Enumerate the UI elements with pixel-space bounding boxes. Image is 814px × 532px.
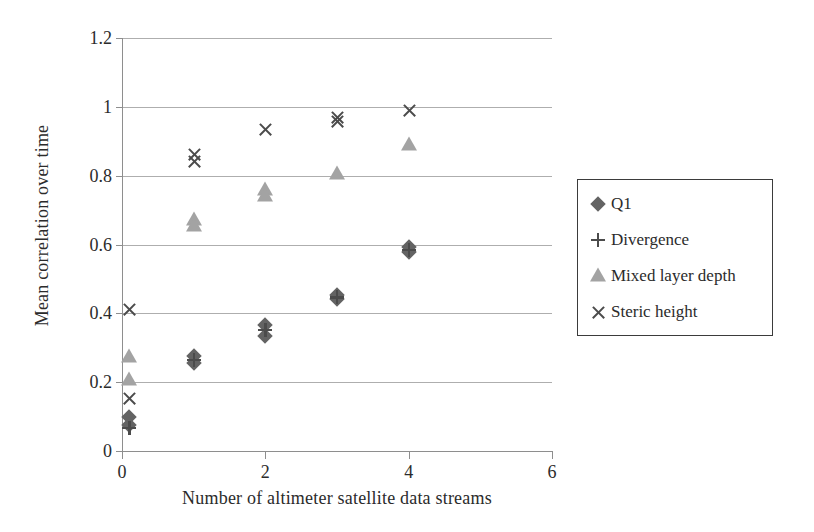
diamond-marker-icon (590, 196, 606, 212)
scatter-chart-figure: Mean correlation over time Number of alt… (0, 0, 814, 532)
cross-marker-icon (591, 305, 606, 320)
y-tick-label: 0.2 (90, 372, 113, 393)
legend-item-mixed-layer-depth[interactable]: Mixed layer depth (588, 264, 736, 288)
data-point-cross (122, 391, 137, 406)
legend-label: Q1 (611, 194, 632, 214)
gridline (122, 38, 552, 39)
data-point-triangle (401, 137, 417, 151)
y-tick-mark (116, 176, 123, 177)
data-point-plus (402, 243, 416, 257)
data-point-plus (330, 290, 344, 304)
y-tick-label: 1 (103, 96, 112, 117)
x-axis-title: Number of altimeter satellite data strea… (122, 488, 552, 509)
chart-legend: Q1DivergenceMixed layer depthSteric heig… (577, 179, 773, 336)
x-tick-mark (265, 451, 266, 459)
data-point-triangle (257, 188, 273, 202)
legend-swatch (588, 194, 608, 214)
x-tick-label: 0 (118, 462, 127, 483)
y-tick-mark (116, 107, 123, 108)
data-point-cross (186, 154, 201, 169)
x-tick-mark (122, 451, 123, 459)
legend-label: Divergence (611, 230, 689, 250)
y-axis-title: Mean correlation over time (32, 66, 53, 386)
y-tick-label: 0.6 (90, 234, 113, 255)
legend-item-divergence[interactable]: Divergence (588, 228, 689, 252)
data-point-cross (122, 302, 137, 317)
data-point-triangle (121, 349, 137, 363)
y-tick-label: 0.8 (90, 165, 113, 186)
gridline (122, 245, 552, 246)
legend-swatch (588, 266, 608, 286)
x-tick-label: 2 (261, 462, 270, 483)
data-point-plus (258, 323, 272, 337)
y-tick-mark (116, 38, 123, 39)
y-tick-label: 0.4 (90, 303, 113, 324)
data-point-cross (330, 114, 345, 129)
data-point-plus (187, 353, 201, 367)
plus-marker-icon (591, 233, 605, 247)
gridline (122, 107, 552, 108)
triangle-marker-icon (590, 268, 606, 282)
legend-label: Steric height (611, 302, 697, 322)
data-point-triangle (121, 372, 137, 386)
y-tick-mark (116, 245, 123, 246)
data-point-plus (122, 421, 136, 435)
x-tick-label: 4 (404, 462, 413, 483)
y-tick-label: 0 (103, 441, 112, 462)
gridline (122, 313, 552, 314)
legend-label: Mixed layer depth (611, 266, 736, 286)
data-point-triangle (329, 166, 345, 180)
y-tick-label: 1.2 (90, 28, 113, 49)
legend-swatch (588, 230, 608, 250)
legend-item-steric-height[interactable]: Steric height (588, 300, 697, 324)
x-axis-line (122, 451, 552, 452)
data-point-triangle (186, 217, 202, 231)
gridline (122, 382, 552, 383)
x-tick-label: 6 (548, 462, 557, 483)
legend-item-q1[interactable]: Q1 (588, 192, 632, 216)
plot-area: 00.20.40.60.811.2 0246 (122, 38, 552, 451)
x-tick-mark (409, 451, 410, 459)
legend-swatch (588, 302, 608, 322)
data-point-cross (258, 122, 273, 137)
data-point-cross (401, 103, 416, 118)
x-tick-mark (552, 451, 553, 459)
